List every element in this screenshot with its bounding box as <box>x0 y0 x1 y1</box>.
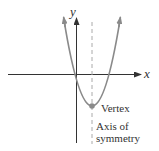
axis-of-symmetry-label-line1: Axis of <box>96 120 129 132</box>
right-arm-arrow <box>119 17 121 27</box>
left-arm-arrow <box>64 17 66 27</box>
parabola-diagram: y x Vertex Axis of symmetry <box>0 0 159 151</box>
vertex-point <box>89 103 95 109</box>
axis-of-symmetry-label-line2: symmetry <box>96 132 140 144</box>
x-axis-label: x <box>143 66 150 81</box>
y-axis-label: y <box>68 4 76 19</box>
vertex-label: Vertex <box>101 102 130 114</box>
